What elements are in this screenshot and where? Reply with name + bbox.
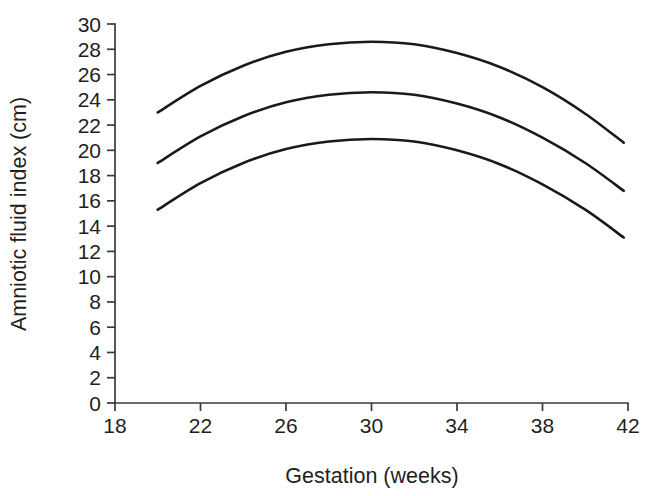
y-tick-label: 10	[78, 265, 101, 288]
x-tick-label: 42	[616, 414, 639, 437]
y-tick-label: 20	[78, 139, 101, 162]
x-tick-label: 34	[445, 414, 469, 437]
y-tick-label: 8	[89, 290, 101, 313]
y-tick-label: 28	[78, 38, 101, 61]
y-axis-title: Amniotic fluid index (cm)	[7, 97, 31, 331]
y-tick-label: 16	[78, 189, 101, 212]
y-tick-label: 26	[78, 63, 101, 86]
y-tick-label: 0	[89, 392, 101, 415]
y-tick-label: 18	[78, 164, 101, 187]
x-tick-label: 30	[360, 414, 383, 437]
y-tick-label: 12	[78, 240, 101, 263]
chart-container: 024681012141618202224262830 182226303438…	[0, 0, 670, 496]
y-tick-label: 22	[78, 114, 101, 137]
y-tick-label: 4	[89, 341, 101, 364]
y-tick-label: 30	[78, 13, 101, 36]
amniotic-fluid-index-chart: 024681012141618202224262830 182226303438…	[0, 0, 670, 496]
x-axis-title: Gestation (weeks)	[285, 464, 458, 488]
y-tick-label: 14	[78, 215, 102, 238]
x-tick-label: 38	[531, 414, 554, 437]
y-tick-label: 6	[89, 316, 101, 339]
y-tick-label: 2	[89, 366, 101, 389]
x-tick-label: 22	[189, 414, 212, 437]
x-tick-label: 26	[274, 414, 297, 437]
y-tick-label: 24	[78, 88, 102, 111]
x-tick-label: 18	[103, 414, 126, 437]
